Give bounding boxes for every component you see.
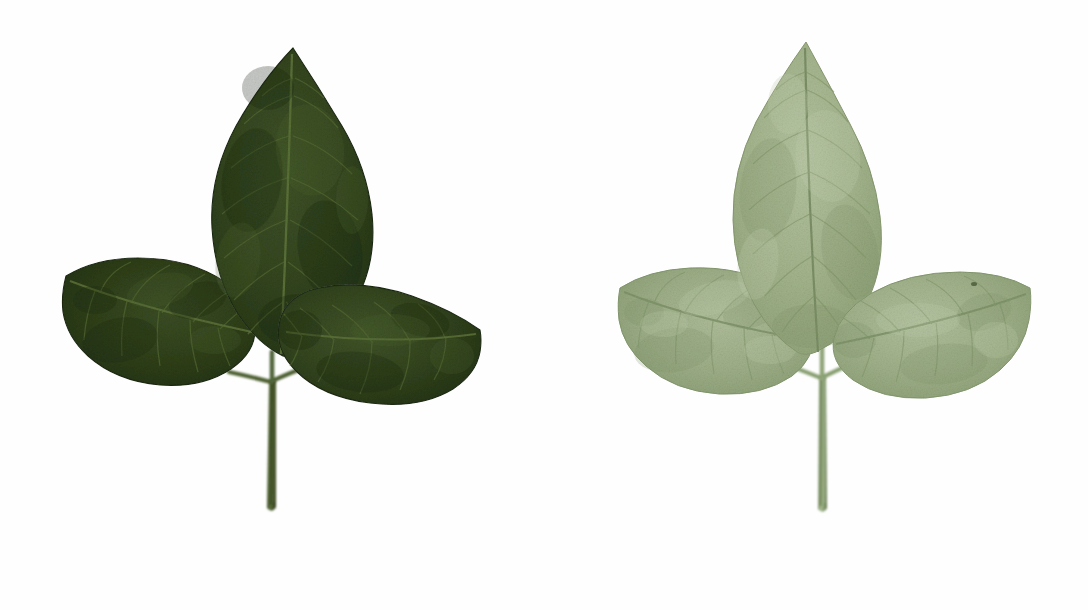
light-leaf-specimen — [544, 0, 1088, 610]
image-canvas: Comparison of two trifoliate leaf specim… — [0, 0, 1088, 610]
light-petiole — [818, 376, 827, 512]
leaf-blemish-speck — [971, 282, 977, 286]
dark-petiole — [267, 380, 276, 511]
dark-leaf-specimen — [0, 0, 544, 610]
dark-leaflet-right — [278, 285, 481, 405]
